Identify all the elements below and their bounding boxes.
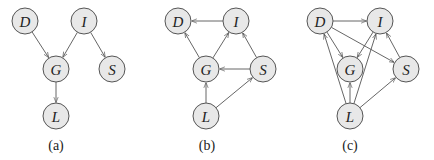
node-i: I	[367, 8, 393, 34]
node-d: D	[165, 8, 191, 34]
node-s: S	[99, 56, 125, 82]
caption-a: (a)	[48, 138, 64, 154]
node-label: S	[402, 62, 410, 78]
diagram-a: DIGSL(a)	[12, 8, 125, 154]
node-s: S	[393, 56, 419, 82]
edge-s-to-i	[243, 33, 257, 58]
edge-g-to-i	[213, 32, 229, 58]
edge-d-to-g	[327, 32, 343, 58]
caption-b: (b)	[199, 138, 216, 154]
node-label: D	[172, 14, 184, 30]
node-label: S	[108, 62, 116, 78]
diagram-b: DIGSL(b)	[165, 8, 276, 154]
bayesian-network-figure: DIGSL(a) DIGSL(b) DIGSL(c)	[0, 0, 434, 160]
node-label: I	[377, 14, 384, 30]
node-l: L	[337, 103, 363, 129]
node-label: L	[201, 109, 210, 125]
node-label: D	[19, 14, 31, 30]
node-d: D	[307, 8, 333, 34]
caption-c: (c)	[342, 138, 358, 154]
node-label: I	[81, 14, 88, 30]
edge-l-to-s	[360, 78, 396, 108]
node-label: G	[51, 62, 62, 78]
node-i: I	[223, 8, 249, 34]
diagram-c: DIGSL(c)	[307, 8, 419, 154]
edge-i-to-s	[91, 32, 106, 57]
node-label: L	[345, 109, 354, 125]
node-d: D	[12, 8, 38, 34]
node-label: D	[314, 14, 326, 30]
node-label: G	[201, 62, 212, 78]
edge-d-to-g	[32, 32, 49, 58]
node-g: G	[193, 56, 219, 82]
node-label: G	[345, 62, 356, 78]
edge-g-to-d	[185, 33, 200, 58]
node-g: G	[337, 56, 363, 82]
node-label: S	[259, 62, 267, 78]
edge-i-to-g	[63, 32, 78, 57]
node-s: S	[250, 56, 276, 82]
edge-i-to-g	[357, 32, 373, 58]
node-l: L	[43, 103, 69, 129]
node-l: L	[193, 103, 219, 129]
node-label: I	[233, 14, 240, 30]
edge-l-to-s	[216, 78, 253, 108]
node-i: I	[71, 8, 97, 34]
node-g: G	[43, 56, 69, 82]
node-label: L	[51, 109, 60, 125]
edge-s-to-i	[386, 33, 399, 58]
